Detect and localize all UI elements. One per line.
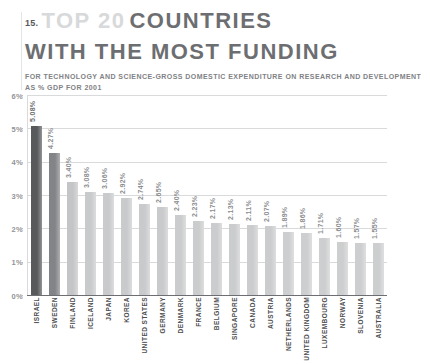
bar-slot[interactable]: 5.08% xyxy=(31,95,42,295)
title-number: 15. xyxy=(25,18,38,28)
bar-slot[interactable]: 1.89% xyxy=(283,95,294,295)
bar[interactable] xyxy=(319,238,330,295)
bar[interactable] xyxy=(31,126,42,295)
bar-slot[interactable]: 2.23% xyxy=(193,95,204,295)
category-label: UNITED KINGDOM xyxy=(303,297,310,361)
category-label: GERMANY xyxy=(159,297,166,333)
y-tick-mark xyxy=(20,195,23,196)
bar[interactable] xyxy=(229,224,240,295)
category-label: NETHERLANDS xyxy=(285,297,292,351)
category-label-slot: NETHERLANDS xyxy=(283,297,294,353)
bar-slot[interactable]: 2.13% xyxy=(229,95,240,295)
y-tick-mark xyxy=(20,95,23,96)
category-label: AUSTRIA xyxy=(267,297,274,329)
category-label: KOREA xyxy=(123,297,130,323)
subtitle-line-2: AS % GDP FOR 2001 xyxy=(25,83,416,94)
bar[interactable] xyxy=(67,182,78,295)
bar-slot[interactable]: 2.65% xyxy=(157,95,168,295)
category-label-slot: AUSTRALIA xyxy=(373,297,384,353)
bar[interactable] xyxy=(175,215,186,295)
y-tick-mark xyxy=(20,128,23,129)
bar-slot[interactable]: 1.60% xyxy=(337,95,348,295)
category-label-slot: ISRAEL xyxy=(31,297,42,353)
category-label-slot: FINLAND xyxy=(67,297,78,353)
category-label: JAPAN xyxy=(105,297,112,321)
y-tick-mark xyxy=(20,262,23,263)
category-label: AUSTRALIA xyxy=(375,297,382,339)
category-label: SINGAPORE xyxy=(231,297,238,340)
bar[interactable] xyxy=(121,198,132,295)
bar-slot[interactable]: 2.74% xyxy=(139,95,150,295)
title-top20: TOP 20 xyxy=(41,8,125,33)
page-title: 15.TOP 20COUNTRIES xyxy=(25,10,416,36)
bar-slot[interactable]: 1.71% xyxy=(319,95,330,295)
y-tick-mark xyxy=(20,295,23,296)
bar-slot[interactable]: 2.07% xyxy=(265,95,276,295)
category-label-slot: ICELAND xyxy=(85,297,96,353)
page-title-line-2: WITH THE MOST FUNDING xyxy=(25,41,416,67)
category-label: LUXEMBOURG xyxy=(321,297,328,348)
bar[interactable] xyxy=(211,223,222,295)
bar-slot[interactable]: 2.40% xyxy=(175,95,186,295)
bar-slot[interactable]: 4.27% xyxy=(49,95,60,295)
header-left-rule xyxy=(21,12,22,90)
bar-slot[interactable]: 3.06% xyxy=(103,95,114,295)
bar[interactable] xyxy=(85,192,96,295)
category-label-slot: SLOVENIA xyxy=(355,297,366,353)
bar[interactable] xyxy=(193,221,204,295)
category-label: SWEDEN xyxy=(51,297,58,328)
category-label-slot: UNITED KINGDOM xyxy=(301,297,312,353)
bar[interactable] xyxy=(103,193,114,295)
category-label: ISRAEL xyxy=(33,297,40,324)
category-label: UNITED STATES xyxy=(141,297,148,354)
bar-series: 5.08%4.27%3.40%3.08%3.06%2.92%2.74%2.65%… xyxy=(27,95,387,295)
category-label-slot: GERMANY xyxy=(157,297,168,353)
bar-slot[interactable]: 2.92% xyxy=(121,95,132,295)
category-label: FINLAND xyxy=(69,297,76,329)
category-label: SLOVENIA xyxy=(357,297,364,334)
plot-area: 5.08%4.27%3.40%3.08%3.06%2.92%2.74%2.65%… xyxy=(27,95,387,295)
bar[interactable] xyxy=(355,243,366,295)
y-tick-mark xyxy=(20,162,23,163)
category-label: DENMARK xyxy=(177,297,184,333)
bar[interactable] xyxy=(373,243,384,295)
bar[interactable] xyxy=(157,207,168,295)
category-label: CANADA xyxy=(249,297,256,328)
category-label: FRANCE xyxy=(195,297,202,327)
category-label-slot: KOREA xyxy=(121,297,132,353)
y-tick-mark xyxy=(20,228,23,229)
bar[interactable] xyxy=(301,233,312,295)
category-label: NORWAY xyxy=(339,297,346,328)
bar-slot[interactable]: 2.11% xyxy=(247,95,258,295)
bar[interactable] xyxy=(139,204,150,295)
y-axis-labels: 0%1%2%3%4%5%6% xyxy=(0,95,23,296)
title-countries: COUNTRIES xyxy=(129,8,272,33)
x-axis-line xyxy=(27,295,387,296)
category-label-slot: NORWAY xyxy=(337,297,348,353)
category-label-slot: AUSTRIA xyxy=(265,297,276,353)
bar[interactable] xyxy=(247,225,258,295)
x-axis-category-labels: ISRAELSWEDENFINLANDICELANDJAPANKOREAUNIT… xyxy=(27,297,387,353)
category-label-slot: CANADA xyxy=(247,297,258,353)
category-label-slot: FRANCE xyxy=(193,297,204,353)
chart-header: 15.TOP 20COUNTRIES WITH THE MOST FUNDING… xyxy=(25,10,416,94)
category-label-slot: JAPAN xyxy=(103,297,114,353)
bar[interactable] xyxy=(265,226,276,295)
bar[interactable] xyxy=(283,232,294,295)
category-label-slot: UNITED STATES xyxy=(139,297,150,353)
category-label: BELGIUM xyxy=(213,297,220,330)
bar-slot[interactable]: 1.86% xyxy=(301,95,312,295)
bar[interactable] xyxy=(49,153,60,295)
category-label: ICELAND xyxy=(87,297,94,329)
category-label-slot: BELGIUM xyxy=(211,297,222,353)
category-label-slot: DENMARK xyxy=(175,297,186,353)
bar-slot[interactable]: 3.40% xyxy=(67,95,78,295)
bar[interactable] xyxy=(337,242,348,295)
subtitle-line-1: FOR TECHNOLOGY AND SCIENCE-GROSS DOMESTI… xyxy=(25,72,416,83)
category-label-slot: LUXEMBOURG xyxy=(319,297,330,353)
bar-slot[interactable]: 1.55% xyxy=(373,95,384,295)
bar-slot[interactable]: 3.08% xyxy=(85,95,96,295)
bar-slot[interactable]: 1.57% xyxy=(355,95,366,295)
bar-slot[interactable]: 2.17% xyxy=(211,95,222,295)
